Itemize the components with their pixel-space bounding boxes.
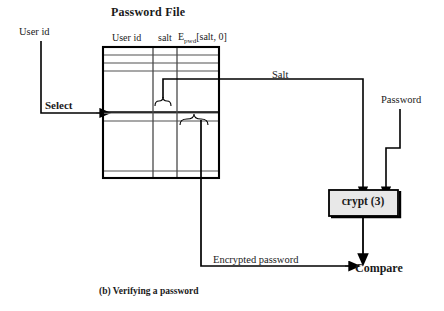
compare-node-label: Compare xyxy=(355,262,403,274)
user-id-input-label: User id xyxy=(19,27,50,38)
page-title: Password File xyxy=(111,6,185,18)
salt-flow-label: Salt xyxy=(272,70,288,81)
encrypted-password-flow-label: Encrypted password xyxy=(213,255,298,266)
table-header-epwd-suffix: [salt, 0] xyxy=(196,31,227,42)
salt-brace-icon xyxy=(155,97,171,106)
figure-caption: (b) Verifying a password xyxy=(99,287,199,297)
table-header-salt: salt xyxy=(158,33,172,43)
encrypted-password-flow-line xyxy=(201,120,350,266)
table-header-epwd-subscript: pwd xyxy=(184,37,196,45)
crypt-node-label: crypt (3) xyxy=(328,196,398,208)
table-header-user-id: User id xyxy=(112,33,141,43)
figure-canvas: Password File User id Select User id sal… xyxy=(0,0,444,311)
password-input-flow-line xyxy=(386,109,400,188)
table-header-encrypted-password: Epwd[salt, 0] xyxy=(178,32,227,45)
encrypted-password-brace-icon xyxy=(180,114,208,125)
select-label: Select xyxy=(45,100,72,111)
password-input-label: Password xyxy=(381,95,421,106)
